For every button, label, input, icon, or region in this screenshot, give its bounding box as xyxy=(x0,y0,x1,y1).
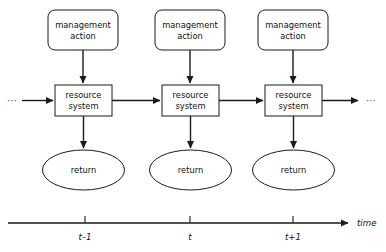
time-axis-name: time xyxy=(357,218,376,228)
management-action-label-line1: management xyxy=(55,20,111,30)
management-action-label-line1: management xyxy=(162,20,218,30)
management-action-label-line2: action xyxy=(177,31,203,41)
management-action-label-line2: action xyxy=(70,31,96,41)
management-action-label-line1: management xyxy=(265,20,321,30)
right-ellipsis: ··· xyxy=(366,96,376,106)
return-label: return xyxy=(281,165,306,175)
time-tick-label-t-plus-1: t+1 xyxy=(285,232,301,242)
time-axis: t–1 t t+1 time xyxy=(8,216,376,242)
resource-management-timeline-diagram: management action resource system return… xyxy=(0,0,386,252)
left-ellipsis: ··· xyxy=(7,96,17,106)
resource-system-label-line1: resource xyxy=(173,90,209,100)
resource-system-label-line2: system xyxy=(176,101,206,111)
resource-system-label-line1: resource xyxy=(276,90,312,100)
diagram-canvas: management action resource system return… xyxy=(0,0,386,252)
management-action-label-line2: action xyxy=(280,31,306,41)
return-label: return xyxy=(178,165,203,175)
resource-system-label-line1: resource xyxy=(66,90,102,100)
resource-system-label-line2: system xyxy=(279,101,309,111)
return-label: return xyxy=(71,165,96,175)
resource-system-label-line2: system xyxy=(69,101,99,111)
time-tick-label-t: t xyxy=(188,232,192,242)
time-tick-label-t-minus-1: t–1 xyxy=(78,232,91,242)
